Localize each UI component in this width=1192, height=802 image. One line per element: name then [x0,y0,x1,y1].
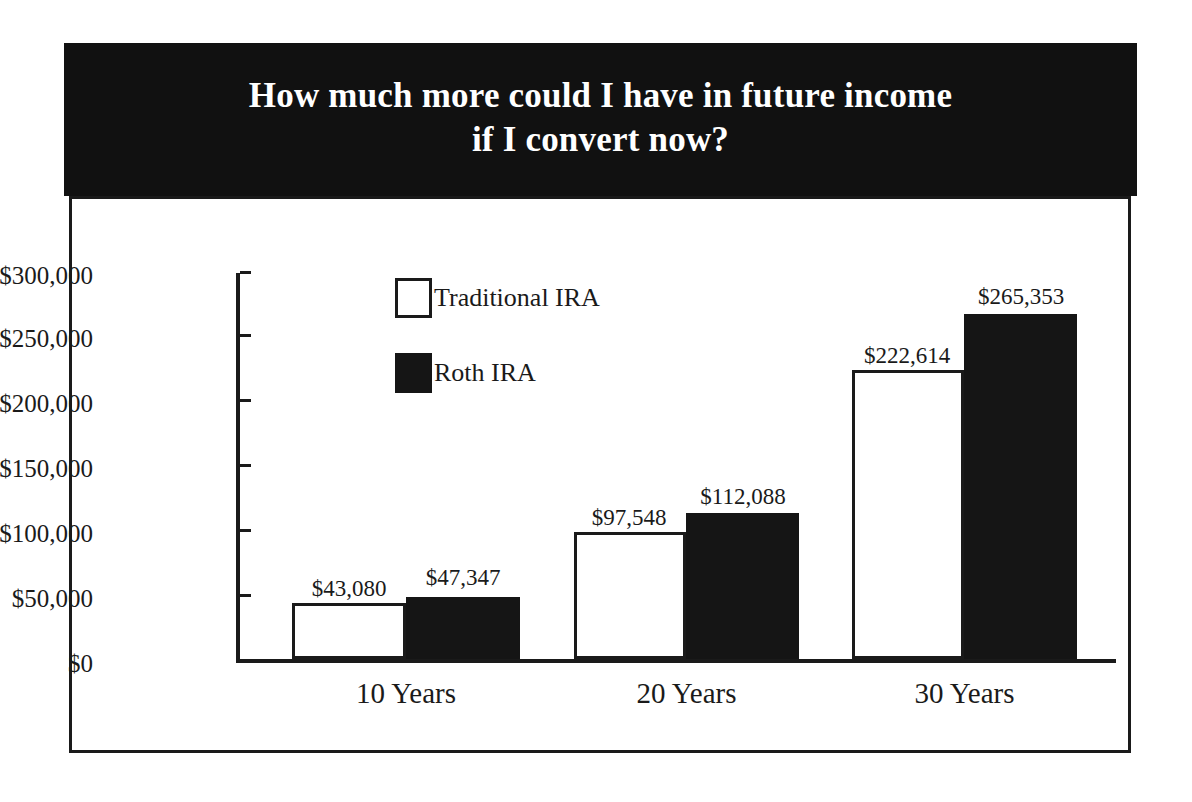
legend-entry-traditional-ira[interactable]: Traditional IRA [395,277,600,319]
value-label-traditional-20-years: $97,548 [572,506,686,529]
bar-traditional-20-years[interactable] [574,532,686,659]
legend-swatch-traditional-icon [395,278,432,318]
legend: Traditional IRA Roth IRA [395,277,600,427]
chart-frame: $0 $50,000 $100,000 $150,000 $200,000 $2… [69,196,1131,753]
chart-title-line-2: if I convert now? [249,118,952,162]
title-banner: How much more could I have in future inc… [64,43,1137,196]
chart-page: How much more could I have in future inc… [0,0,1192,802]
x-tick-label-20-years: 20 Years [574,679,799,708]
x-axis-line [236,659,1116,663]
x-tick-label-10-years: 10 Years [292,679,520,708]
bars-layer [72,199,1128,659]
plot-area: $0 $50,000 $100,000 $150,000 $200,000 $2… [72,199,1128,750]
bar-roth-30-years[interactable] [964,314,1077,659]
x-tick-label-30-years: 30 Years [852,679,1077,708]
y-tick-mark-0 [240,659,251,662]
legend-entry-roth-ira[interactable]: Roth IRA [395,352,600,394]
value-label-roth-30-years: $265,353 [962,285,1080,308]
legend-label-roth-ira: Roth IRA [434,360,536,386]
chart-title-line-1: How much more could I have in future inc… [249,74,952,118]
bar-traditional-10-years[interactable] [292,603,406,659]
bar-roth-20-years[interactable] [686,513,799,659]
value-label-roth-20-years: $112,088 [685,485,801,508]
legend-swatch-roth-icon [395,353,432,393]
value-label-traditional-10-years: $43,080 [292,577,406,600]
value-label-traditional-30-years: $222,614 [848,344,966,367]
bar-traditional-30-years[interactable] [852,370,964,659]
legend-label-traditional-ira: Traditional IRA [434,285,600,311]
value-label-roth-10-years: $47,347 [406,566,520,589]
chart-title: How much more could I have in future inc… [249,74,952,166]
bar-roth-10-years[interactable] [406,597,520,659]
